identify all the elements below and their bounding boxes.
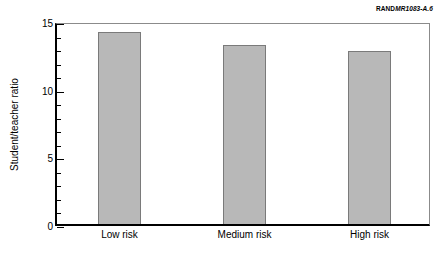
y-axis-minor-tick xyxy=(57,119,61,120)
y-axis-minor-tick xyxy=(57,200,61,201)
y-axis-minor-tick xyxy=(57,173,61,174)
plot-area: 051015Low riskMedium riskHigh risk xyxy=(55,23,430,226)
y-axis-title: Student/teacher ratio xyxy=(8,23,22,226)
bar xyxy=(348,51,391,224)
y-axis-minor-tick xyxy=(57,186,61,187)
x-axis-category-label: Low risk xyxy=(101,230,138,240)
y-axis-tick-label: 0 xyxy=(47,222,53,232)
y-axis-minor-tick xyxy=(57,105,61,106)
y-axis-major-tick xyxy=(57,159,64,160)
source-tag: RANDMR1083-A.6 xyxy=(376,6,433,13)
y-axis-minor-tick xyxy=(57,65,61,66)
source-tag-brand: RAND xyxy=(376,5,395,12)
bar xyxy=(223,45,266,224)
y-axis-major-tick xyxy=(57,24,64,25)
x-axis-category-label: High risk xyxy=(350,230,389,240)
x-axis-category-label: Medium risk xyxy=(218,230,272,240)
y-axis-tick-label: 10 xyxy=(42,87,53,97)
y-axis-minor-tick xyxy=(57,38,61,39)
source-tag-code: MR1083-A.6 xyxy=(395,5,433,12)
y-axis-major-tick xyxy=(57,227,64,228)
y-axis-major-tick xyxy=(57,92,64,93)
y-axis-tick-label: 5 xyxy=(47,154,53,164)
y-axis-tick-label: 15 xyxy=(42,19,53,29)
y-axis-minor-tick xyxy=(57,213,61,214)
y-axis-minor-tick xyxy=(57,78,61,79)
y-axis-minor-tick xyxy=(57,146,61,147)
y-axis-minor-tick xyxy=(57,51,61,52)
figure-container: RANDMR1083-A.6 Student/teacher ratio 051… xyxy=(0,0,439,256)
y-axis-minor-tick xyxy=(57,132,61,133)
bar xyxy=(98,32,141,224)
